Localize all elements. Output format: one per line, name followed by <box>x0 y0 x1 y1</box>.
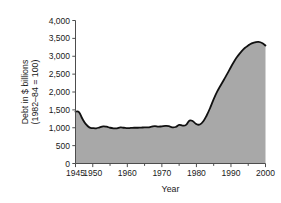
x-tick-label: 1980 <box>187 168 206 178</box>
x-tick-label: 1950 <box>83 168 102 178</box>
y-axis-title-text-line1: Debt in $ billions <box>20 59 30 124</box>
y-tick-label: 3,500 <box>49 33 71 43</box>
y-tick-label: 1,500 <box>49 105 71 115</box>
debt-area-chart: 05001,0001,5002,0002,5003,0003,5004,0001… <box>0 0 281 203</box>
y-tick-label: 2,500 <box>49 69 71 79</box>
y-tick-label: 2,000 <box>49 87 71 97</box>
y-tick-label: 3,000 <box>49 51 71 61</box>
x-tick-label: 1990 <box>221 168 240 178</box>
x-tick-label: 1960 <box>118 168 137 178</box>
y-tick-label: 500 <box>56 141 70 151</box>
x-tick-label: 2000 <box>256 168 275 178</box>
y-tick-label: 4,000 <box>49 16 71 26</box>
chart-canvas: 05001,0001,5002,0002,5003,0003,5004,0001… <box>0 0 281 203</box>
x-axis-title-text: Year <box>162 184 180 194</box>
x-tick-label: 1970 <box>152 168 171 178</box>
y-axis-title-text-line2: (1982–84 = 100) <box>30 60 40 125</box>
y-axis-title-group: Debt in $ billions(1982–84 = 100) <box>20 59 40 124</box>
y-tick-label: 1,000 <box>49 123 71 133</box>
